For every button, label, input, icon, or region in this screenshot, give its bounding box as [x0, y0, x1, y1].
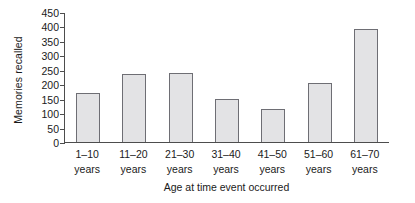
y-axis-tick-label: 300 [25, 50, 59, 62]
y-axis-tick-label: 450 [25, 7, 59, 19]
x-axis-tick-labels: 1–10years11–20years21–30years31–40years4… [64, 147, 389, 179]
y-axis-title: Memories recalled [12, 15, 24, 145]
y-axis-tick-label: 100 [25, 108, 59, 120]
x-tick-unit: years [249, 162, 295, 177]
bar [76, 93, 100, 142]
y-axis-tick-mark [60, 85, 64, 86]
bars-layer [65, 12, 389, 142]
x-tick-unit: years [203, 162, 249, 177]
y-axis-tick-label: 250 [25, 65, 59, 77]
x-axis-tick-label: 51–60years [295, 147, 341, 176]
y-axis-tick-label: 400 [25, 21, 59, 33]
bar [169, 73, 193, 142]
y-axis-tick-label: 200 [25, 79, 59, 91]
x-axis-tick-label: 61–70years [342, 147, 388, 176]
x-axis-tick-label: 21–30years [157, 147, 203, 176]
x-tick-range: 11–20 [110, 147, 156, 162]
y-axis-tick-mark [60, 71, 64, 72]
y-axis-tick-mark [60, 114, 64, 115]
x-tick-range: 51–60 [295, 147, 341, 162]
y-axis-tick-mark [60, 13, 64, 14]
bar [354, 29, 378, 142]
bar [215, 99, 239, 142]
x-tick-range: 61–70 [342, 147, 388, 162]
plot-area [64, 13, 389, 143]
x-tick-unit: years [110, 162, 156, 177]
x-tick-unit: years [342, 162, 388, 177]
x-tick-unit: years [157, 162, 203, 177]
bar [122, 74, 146, 142]
y-axis-tick-mark [60, 27, 64, 28]
bar [308, 83, 332, 142]
x-tick-range: 21–30 [157, 147, 203, 162]
x-tick-unit: years [295, 162, 341, 177]
x-axis-tick-label: 31–40years [203, 147, 249, 176]
x-axis-title: Age at time event occurred [64, 181, 389, 193]
x-axis-tick-label: 41–50years [249, 147, 295, 176]
x-axis-tick-label: 1–10years [64, 147, 110, 176]
y-axis-tick-label: 0 [25, 137, 59, 149]
x-tick-range: 1–10 [64, 147, 110, 162]
y-axis-tick-mark [60, 100, 64, 101]
bar [261, 109, 285, 142]
x-tick-unit: years [64, 162, 110, 177]
y-axis-tick-mark [60, 56, 64, 57]
y-axis-tick-mark [60, 129, 64, 130]
y-axis-tick-label: 50 [25, 123, 59, 135]
x-tick-range: 31–40 [203, 147, 249, 162]
x-tick-range: 41–50 [249, 147, 295, 162]
bar-chart-figure: Memories recalled 0501001502002503003504… [0, 0, 415, 203]
y-axis-tick-label: 150 [25, 94, 59, 106]
x-axis-tick-label: 11–20years [110, 147, 156, 176]
y-axis-tick-label: 350 [25, 36, 59, 48]
y-axis-tick-labels: 050100150200250300350400450 [25, 7, 59, 149]
x-axis-line [64, 142, 389, 143]
y-axis-tick-mark [60, 143, 64, 144]
y-axis-tick-mark [60, 42, 64, 43]
